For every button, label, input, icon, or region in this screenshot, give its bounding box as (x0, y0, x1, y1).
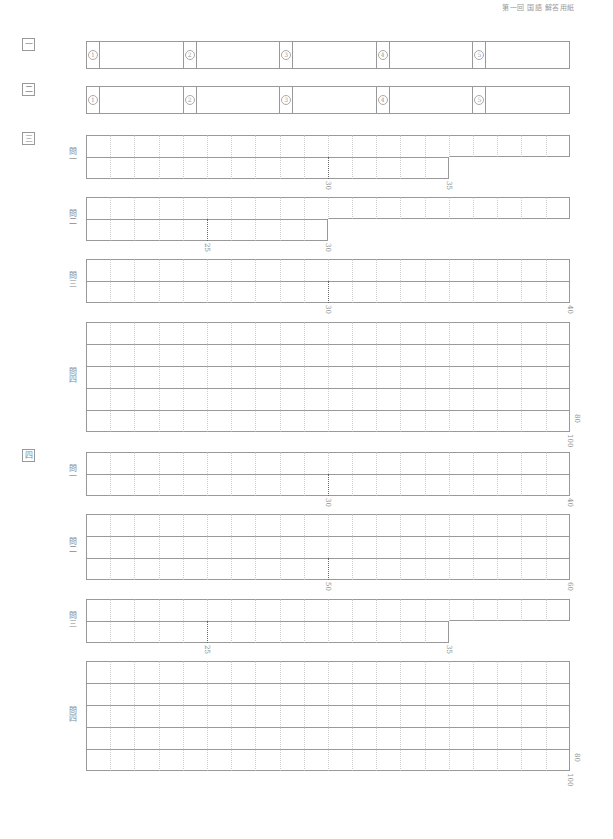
grid-cell[interactable] (521, 514, 545, 536)
grid-cell[interactable] (280, 259, 304, 281)
grid-cell[interactable] (425, 135, 449, 157)
grid-cell[interactable] (86, 366, 110, 388)
grid-cell[interactable] (231, 219, 255, 241)
grid-cell[interactable] (304, 599, 328, 621)
grid-cell[interactable] (183, 157, 207, 179)
grid-cell[interactable] (400, 344, 424, 366)
grid-cell[interactable] (207, 366, 231, 388)
grid-cell[interactable] (280, 157, 304, 179)
grid-cell[interactable] (86, 219, 110, 241)
choice-slot[interactable]: 3 (280, 42, 377, 68)
grid-cell[interactable] (425, 705, 449, 727)
grid-cell[interactable] (328, 135, 352, 157)
grid-cell[interactable] (231, 705, 255, 727)
grid-cell[interactable] (159, 599, 183, 621)
grid-cell[interactable] (280, 344, 304, 366)
grid-cell[interactable] (134, 558, 158, 580)
grid-cell[interactable] (521, 388, 545, 410)
grid-cell[interactable] (546, 344, 570, 366)
grid-cell[interactable] (328, 661, 352, 683)
answer-field[interactable] (486, 42, 569, 68)
grid-cell[interactable] (497, 452, 521, 474)
grid-cell[interactable] (183, 727, 207, 749)
grid-cell[interactable] (86, 388, 110, 410)
grid-cell[interactable] (134, 157, 158, 179)
grid-cell[interactable] (304, 705, 328, 727)
grid-cell[interactable] (352, 474, 376, 496)
grid-cell[interactable] (231, 197, 255, 219)
grid-cell[interactable] (352, 749, 376, 771)
grid-cell[interactable] (473, 599, 497, 621)
grid-cell[interactable] (110, 410, 134, 432)
grid-cell[interactable] (352, 452, 376, 474)
grid-cell[interactable] (207, 157, 231, 179)
grid-cell[interactable] (328, 410, 352, 432)
grid-cell[interactable] (110, 135, 134, 157)
grid-cell[interactable] (546, 322, 570, 344)
grid-cell[interactable] (376, 599, 400, 621)
grid-cell[interactable] (497, 410, 521, 432)
grid-cell[interactable] (255, 705, 279, 727)
grid-cell[interactable] (207, 683, 231, 705)
grid-cell[interactable] (134, 322, 158, 344)
grid-cell[interactable] (207, 558, 231, 580)
grid-cell[interactable] (425, 621, 449, 643)
grid-cell[interactable] (86, 536, 110, 558)
grid-cell[interactable] (183, 366, 207, 388)
grid-cell[interactable] (352, 599, 376, 621)
grid-cell[interactable] (86, 749, 110, 771)
grid-cell[interactable] (255, 683, 279, 705)
grid-cell[interactable] (497, 727, 521, 749)
grid-cell[interactable] (231, 514, 255, 536)
grid-cell[interactable] (86, 197, 110, 219)
grid-cell[interactable] (231, 157, 255, 179)
grid-cell[interactable] (497, 366, 521, 388)
grid-cell[interactable] (400, 197, 424, 219)
grid-cell[interactable] (400, 259, 424, 281)
grid-cell[interactable] (400, 474, 424, 496)
grid-cell[interactable] (400, 322, 424, 344)
grid-cell[interactable] (546, 452, 570, 474)
grid-cell[interactable] (207, 621, 231, 643)
grid-cell[interactable] (110, 452, 134, 474)
grid-cell[interactable] (183, 135, 207, 157)
grid-cell[interactable] (376, 388, 400, 410)
grid-cell[interactable] (255, 749, 279, 771)
writing-grid[interactable]: 3040 (86, 452, 570, 496)
grid-cell[interactable] (473, 474, 497, 496)
grid-cell[interactable] (497, 705, 521, 727)
grid-cell[interactable] (231, 683, 255, 705)
grid-cell[interactable] (280, 599, 304, 621)
grid-cell[interactable] (425, 683, 449, 705)
grid-cell[interactable] (521, 661, 545, 683)
grid-cell[interactable] (546, 536, 570, 558)
grid-cell[interactable] (546, 197, 570, 219)
grid-cell[interactable] (449, 749, 473, 771)
grid-cell[interactable] (400, 599, 424, 621)
grid-cell[interactable] (255, 281, 279, 303)
grid-cell[interactable] (400, 661, 424, 683)
grid-cell[interactable] (280, 281, 304, 303)
grid-cell[interactable] (134, 259, 158, 281)
grid-cell[interactable] (280, 536, 304, 558)
grid-cell[interactable] (183, 661, 207, 683)
grid-cell[interactable] (86, 281, 110, 303)
grid-cell[interactable] (86, 259, 110, 281)
writing-grid[interactable]: 10080 (86, 661, 570, 771)
grid-cell[interactable] (449, 388, 473, 410)
grid-cell[interactable] (352, 322, 376, 344)
grid-cell[interactable] (183, 410, 207, 432)
answer-field[interactable] (293, 87, 376, 113)
grid-cell[interactable] (231, 281, 255, 303)
grid-cell[interactable] (376, 135, 400, 157)
grid-cell[interactable] (304, 452, 328, 474)
grid-cell[interactable] (449, 705, 473, 727)
grid-cell[interactable] (328, 366, 352, 388)
grid-cell[interactable] (328, 197, 352, 219)
writing-grid[interactable]: 3035 (86, 135, 570, 179)
grid-cell[interactable] (449, 661, 473, 683)
grid-cell[interactable] (497, 135, 521, 157)
grid-cell[interactable] (497, 259, 521, 281)
grid-cell[interactable] (159, 621, 183, 643)
grid-cell[interactable] (521, 197, 545, 219)
